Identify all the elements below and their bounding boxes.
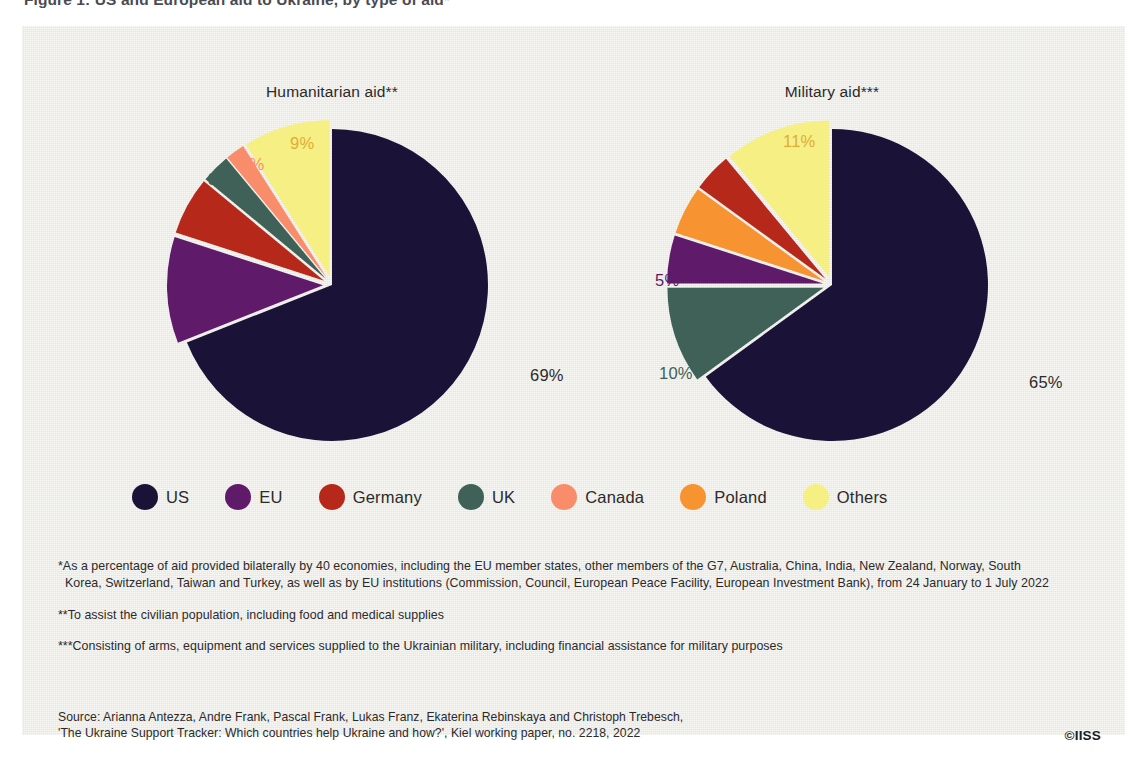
pie-label-military-eu: 5%	[655, 271, 679, 290]
legend-label: US	[166, 488, 189, 507]
footnote-1-line-2: Korea, Switzerland, Taiwan and Turkey, a…	[58, 575, 1128, 592]
legend-label: Canada	[585, 488, 644, 507]
legend-label: UK	[492, 488, 515, 507]
legend-swatch-icon-eu	[225, 484, 251, 510]
legend-item-eu[interactable]: EU	[225, 484, 282, 510]
pie-military	[667, 121, 988, 441]
source-citation: Source: Arianna Antezza, Andre Frank, Pa…	[58, 709, 683, 741]
legend-swatch-icon-germany	[319, 484, 345, 510]
pie-label-military-us: 65%	[1029, 373, 1063, 392]
legend-item-poland[interactable]: Poland	[680, 484, 767, 510]
legend-item-germany[interactable]: Germany	[319, 484, 422, 510]
page-headline: Figure 1: US and European aid to Ukraine…	[24, 0, 1024, 9]
legend-item-canada[interactable]: Canada	[551, 484, 644, 510]
footnotes: *As a percentage of aid provided bilater…	[58, 558, 1128, 669]
pie-label-humanitarian-uk: 3%	[208, 170, 232, 189]
legend-item-us[interactable]: US	[132, 484, 189, 510]
copyright-notice: ©IISS	[1065, 728, 1101, 743]
pie-label-humanitarian-us: 69%	[530, 366, 564, 385]
pie-label-humanitarian-eu: 11%	[176, 296, 208, 315]
pie-label-humanitarian-canada: 2%	[240, 155, 264, 174]
chart-legend: USEUGermanyUKCanadaPolandOthers	[132, 474, 1092, 520]
legend-swatch-icon-canada	[551, 484, 577, 510]
source-line-1: Source: Arianna Antezza, Andre Frank, Pa…	[58, 709, 683, 725]
legend-label: Germany	[353, 488, 422, 507]
pie-label-military-germany: 4%	[713, 181, 737, 200]
footnote-2: **To assist the civilian population, inc…	[58, 607, 1128, 624]
legend-item-uk[interactable]: UK	[458, 484, 515, 510]
source-line-2: 'The Ukraine Support Tracker: Which coun…	[58, 725, 683, 741]
pie-label-military-uk: 10%	[659, 364, 693, 383]
chart-panel: Humanitarian aid** Military aid*** 9%2%3…	[22, 26, 1125, 735]
footnote-3: ***Consisting of arms, equipment and ser…	[58, 638, 1128, 655]
pie-label-military-poland: 5%	[682, 221, 706, 240]
pie-humanitarian	[167, 120, 488, 441]
legend-swatch-icon-uk	[458, 484, 484, 510]
legend-item-others[interactable]: Others	[803, 484, 888, 510]
legend-label: Others	[837, 488, 888, 507]
legend-swatch-icon-others	[803, 484, 829, 510]
pie-label-humanitarian-germany: 6%	[190, 216, 214, 235]
legend-swatch-icon-us	[132, 484, 158, 510]
figure-root: Figure 1: US and European aid to Ukraine…	[0, 0, 1147, 764]
footnote-1-line-1: *As a percentage of aid provided bilater…	[58, 559, 1021, 573]
pie-label-military-others: 11%	[783, 132, 815, 151]
pie-label-humanitarian-others: 9%	[290, 134, 314, 153]
legend-label: EU	[259, 488, 282, 507]
footnote-1: *As a percentage of aid provided bilater…	[58, 558, 1128, 592]
legend-swatch-icon-poland	[680, 484, 706, 510]
legend-label: Poland	[714, 488, 767, 507]
